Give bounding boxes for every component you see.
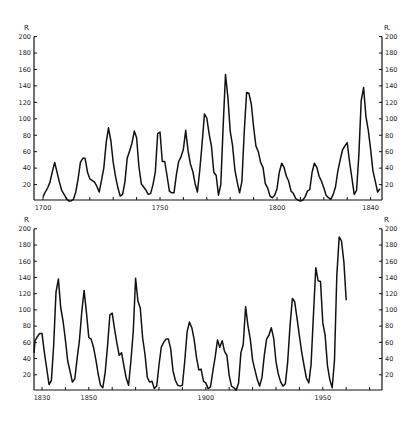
x-tick-label: 1840 [362,204,379,212]
y-tick-label-left: 200 [19,33,31,41]
y-tick-label-left: 140 [19,82,31,90]
y-tick-label-left: 80 [23,132,31,140]
y-tick-label-right: 140 [385,274,397,282]
y-tick-label-left: 120 [19,290,31,298]
y-tick-label-left: 40 [23,355,31,363]
y-tick-label-right: 180 [385,241,397,249]
y-tick-label-right: 60 [385,339,393,347]
x-tick-label: 1750 [152,204,169,212]
y-tick-label-left: 80 [23,322,31,330]
y-tick-label-right: 200 [385,33,397,41]
sunspot-series-line [43,74,380,201]
top-panel: 2020404060608080100100120120140140160160… [19,24,398,212]
y-tick-label-right: 200 [385,225,397,233]
y-tick-label-left: 100 [19,306,31,314]
y-tick-label-left: 160 [19,66,31,74]
y-tick-label-right: 140 [385,82,397,90]
x-tick-label: 1900 [198,394,215,402]
x-tick-label: 1850 [81,394,98,402]
y-tick-label-right: 60 [385,148,393,156]
x-tick-label: 1800 [269,204,286,212]
y-tick-label-left: 180 [19,49,31,57]
y-tick-label-right: 120 [385,99,397,107]
y-tick-label-right: 80 [385,132,393,140]
y-tick-label-right: 100 [385,306,397,314]
y-axis-title-left: R [24,24,29,32]
y-tick-label-right: 40 [385,164,393,172]
y-tick-label-right: 160 [385,258,397,266]
y-tick-label-right: 100 [385,115,397,123]
y-tick-label-right: 120 [385,290,397,298]
x-tick-label: 1700 [35,204,52,212]
y-axis-title-right: R [384,216,389,224]
y-tick-label-left: 100 [19,115,31,123]
y-tick-label-left: 140 [19,274,31,282]
y-tick-label-left: 180 [19,241,31,249]
y-axis-title-right: R. [384,24,391,32]
y-tick-label-right: 40 [385,355,393,363]
y-tick-label-left: 160 [19,258,31,266]
y-axis-title-left: R [24,216,29,224]
x-tick-label: 1950 [315,394,332,402]
y-tick-label-left: 20 [23,371,31,379]
y-tick-label-left: 60 [23,148,31,156]
bottom-panel: 2020404060608080100100120120140140160160… [19,216,398,402]
y-tick-label-right: 80 [385,322,393,330]
y-tick-label-left: 60 [23,339,31,347]
y-tick-label-right: 20 [385,371,393,379]
y-tick-label-right: 160 [385,66,397,74]
y-tick-label-right: 180 [385,49,397,57]
y-tick-label-right: 20 [385,181,393,189]
y-tick-label-left: 20 [23,181,31,189]
y-tick-label-left: 120 [19,99,31,107]
x-tick-label: 1830 [34,394,51,402]
y-tick-label-left: 40 [23,164,31,172]
y-tick-label-left: 200 [19,225,31,233]
sunspot-series-line [34,237,346,390]
sunspot-chart: 2020404060608080100100120120140140160160… [0,0,409,422]
